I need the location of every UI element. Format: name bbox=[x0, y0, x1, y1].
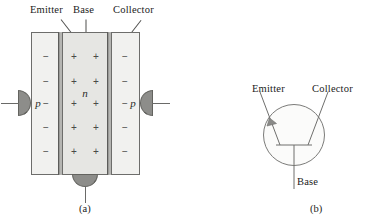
collector-region-letter: p bbox=[130, 97, 136, 109]
figure-root: Emitter Base Collector − − − − − + + + +… bbox=[0, 0, 377, 222]
collector-carrier-sign: − bbox=[122, 99, 128, 109]
base-carrier-sign: + bbox=[71, 77, 77, 87]
emitter-terminal-contact bbox=[18, 90, 31, 116]
base-carrier-sign: + bbox=[71, 147, 77, 157]
transistor-symbol-graphics bbox=[200, 0, 377, 222]
base-carrier-sign: + bbox=[71, 52, 77, 62]
collector-carrier-sign: − bbox=[122, 77, 128, 87]
emitter-carrier-sign: − bbox=[43, 52, 49, 62]
emitter-region-letter: p bbox=[35, 97, 41, 109]
collector-lead bbox=[152, 103, 170, 104]
panel-b-transistor-symbol: Emitter Collector Base (b) bbox=[200, 0, 377, 222]
base-carrier-sign: + bbox=[93, 52, 99, 62]
emitter-lead bbox=[1, 103, 19, 104]
collector-carrier-sign: − bbox=[122, 123, 128, 133]
collector-carrier-sign: − bbox=[122, 52, 128, 62]
base-carrier-sign: + bbox=[93, 123, 99, 133]
emitter-carrier-sign: − bbox=[43, 147, 49, 157]
emitter-carrier-sign: − bbox=[43, 77, 49, 87]
base-carrier-sign: + bbox=[71, 123, 77, 133]
collector-carrier-sign: − bbox=[122, 147, 128, 157]
base-carrier-sign: + bbox=[93, 77, 99, 87]
emitter-carrier-sign: − bbox=[43, 99, 49, 109]
caption-b: (b) bbox=[310, 203, 322, 214]
emitter-arrowhead-icon bbox=[267, 118, 277, 126]
label-emitter-a: Emitter bbox=[30, 4, 63, 15]
base-region-n bbox=[62, 32, 108, 175]
collector-lead-line bbox=[308, 92, 328, 145]
base-carrier-sign: + bbox=[71, 99, 77, 109]
base-carrier-sign: + bbox=[93, 99, 99, 109]
label-collector-a: Collector bbox=[113, 4, 154, 15]
label-base-a: Base bbox=[73, 4, 94, 15]
base-region-letter: n bbox=[82, 87, 88, 99]
base-lead bbox=[85, 186, 86, 203]
caption-a: (a) bbox=[79, 203, 91, 214]
panel-a-transistor-structure: Emitter Base Collector − − − − − + + + +… bbox=[0, 0, 200, 222]
emitter-carrier-sign: − bbox=[43, 123, 49, 133]
base-carrier-sign: + bbox=[93, 147, 99, 157]
